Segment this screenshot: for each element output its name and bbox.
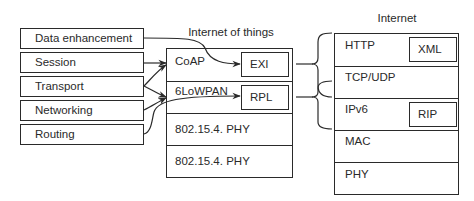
layer-label: TCP/UDP	[345, 72, 395, 84]
internet-layer-phy: PHY	[335, 162, 458, 195]
inner-label: RIP	[418, 109, 437, 121]
function-box-networking: Networking	[20, 100, 144, 121]
function-label: Transport	[35, 81, 84, 93]
brace-network	[312, 81, 332, 129]
internet-stack-title: Internet	[378, 13, 417, 25]
iot-layer-phy-2: 802.15.4. PHY	[167, 145, 292, 177]
internet-layer-ipv6: IPv6 RIP	[335, 98, 458, 130]
internet-layer-http: HTTP XML	[335, 34, 458, 66]
internet-stack: HTTP XML TCP/UDP IPv6 RIP MAC PHY	[334, 33, 459, 195]
function-label: Routing	[35, 129, 75, 141]
internet-inner-xml: XML	[409, 37, 457, 62]
inner-label: XML	[418, 44, 442, 56]
arrow-transport-to-coap	[144, 65, 166, 86]
internet-layer-tcp-udp: TCP/UDP	[335, 66, 458, 98]
iot-layer-6lowpan: 6LoWPAN RPL	[167, 81, 292, 113]
iot-stack: CoAP EXI 6LoWPAN RPL 802.15.4. PHY 802.1…	[166, 48, 293, 178]
function-box-routing: Routing	[20, 124, 144, 145]
layer-label: MAC	[345, 136, 371, 148]
function-box-data-enhancement: Data enhancement	[20, 28, 144, 49]
arrow-transport-to-6lowpan	[144, 86, 166, 97]
layer-label: 6LoWPAN	[175, 86, 228, 98]
function-box-transport: Transport	[20, 76, 144, 97]
iot-inner-rpl: RPL	[241, 85, 289, 110]
brace-application-transport	[312, 33, 332, 97]
function-label: Networking	[35, 105, 93, 117]
function-label: Data enhancement	[35, 33, 132, 45]
inner-label: RPL	[250, 92, 272, 104]
iot-inner-exi: EXI	[241, 52, 289, 77]
internet-inner-rip: RIP	[409, 102, 457, 127]
layer-label: HTTP	[345, 40, 375, 52]
layer-label: CoAP	[175, 56, 205, 68]
inner-label: EXI	[250, 59, 269, 71]
iot-layer-coap: CoAP EXI	[167, 49, 292, 81]
iot-layer-phy-1: 802.15.4. PHY	[167, 113, 292, 145]
iot-stack-title: Internet of things	[188, 27, 274, 39]
layer-label: PHY	[345, 169, 369, 181]
layer-label: 802.15.4. PHY	[175, 124, 250, 136]
layer-label: IPv6	[345, 104, 368, 116]
internet-layer-mac: MAC	[335, 130, 458, 162]
function-label: Session	[35, 57, 76, 69]
layer-label: 802.15.4. PHY	[175, 156, 250, 168]
arrow-networking-to-6lowpan	[144, 98, 166, 110]
function-box-session: Session	[20, 52, 144, 73]
